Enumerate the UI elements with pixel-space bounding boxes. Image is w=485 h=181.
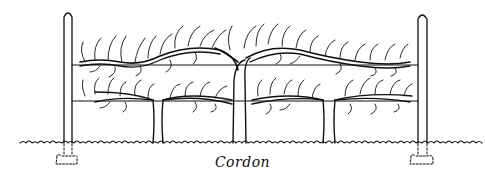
- tree-left: [80, 26, 238, 143]
- cordon-illustration: Cordon: [0, 0, 485, 181]
- tree-center: [215, 24, 410, 143]
- ground-line: [20, 141, 482, 143]
- figure-caption: Cordon: [0, 154, 485, 170]
- tree-right: [252, 78, 412, 143]
